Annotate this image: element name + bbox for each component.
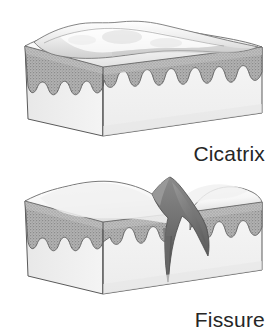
figure-cicatrix: Cicatrix	[0, 0, 277, 166]
cicatrix-texture-blob	[68, 35, 96, 45]
cicatrix-texture-blob	[102, 30, 142, 44]
caption-fissure: Fissure	[195, 309, 265, 330]
cicatrix-texture-blob	[150, 38, 182, 48]
caption-cicatrix: Cicatrix	[193, 143, 265, 164]
lesion-figure-stack: Cicatrix	[0, 0, 277, 333]
figure-fissure: Fissure	[0, 166, 277, 332]
